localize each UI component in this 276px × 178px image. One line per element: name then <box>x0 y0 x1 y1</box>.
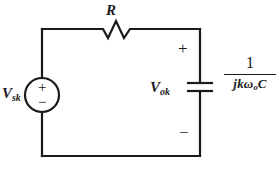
source-voltage-label-sub: sk <box>12 92 21 103</box>
capacitor-plus-sign: + <box>178 40 188 57</box>
source-voltage-label-main: V <box>2 85 12 101</box>
resistor-label: R <box>106 3 116 18</box>
impedance-fraction-bar <box>224 74 276 75</box>
output-voltage-label: Vok <box>150 80 170 97</box>
impedance-denominator: jkωoC <box>224 77 276 92</box>
source-voltage-label: Vsk <box>2 86 21 103</box>
impedance-denominator-jk: jk <box>233 76 244 91</box>
impedance-denominator-c: C <box>258 76 267 91</box>
circuit-diagram: R Vsk Vok 1 jkωoC + − + − <box>0 0 276 178</box>
output-voltage-label-main: V <box>150 79 160 95</box>
resistor-zigzag-icon <box>98 21 135 38</box>
capacitor-minus-sign: − <box>179 124 189 141</box>
output-voltage-label-sub: ok <box>160 86 170 97</box>
capacitor-impedance-label: 1 jkωoC <box>224 55 276 92</box>
source-minus-sign: − <box>38 95 46 110</box>
impedance-numerator: 1 <box>224 55 276 73</box>
source-plus-sign: + <box>38 80 46 95</box>
